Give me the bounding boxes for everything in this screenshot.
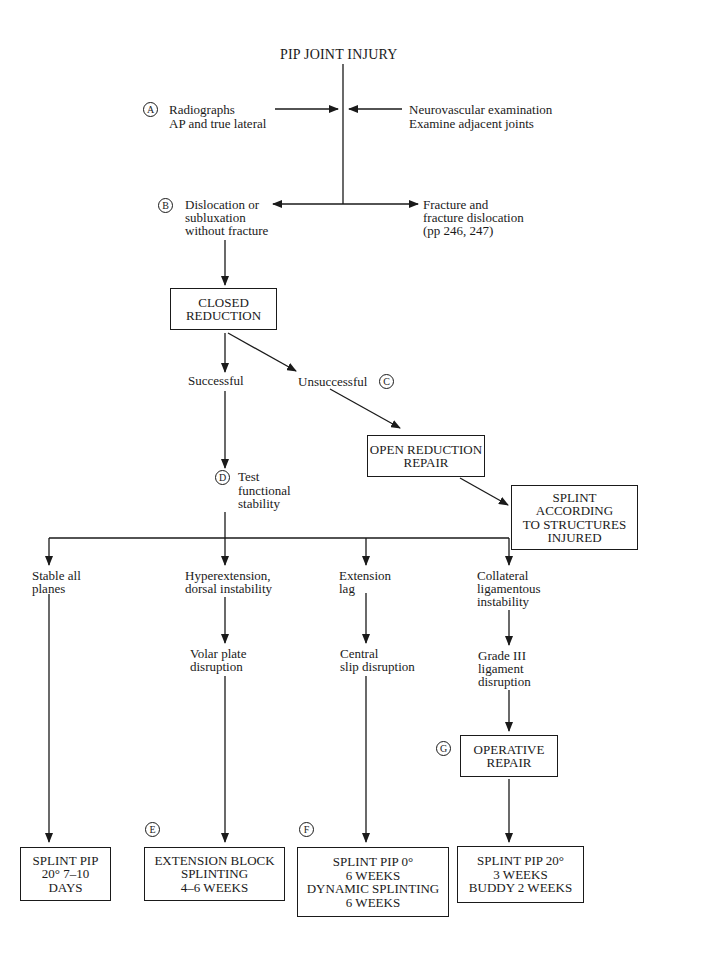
splint-according-line3: TO STRUCTURES <box>523 518 626 532</box>
arrow-to-unsuccessful <box>228 333 296 371</box>
col1-condition-line2: planes <box>32 582 65 596</box>
marker-d: D <box>215 470 230 485</box>
fracture-line3: (pp 246, 247) <box>423 224 493 238</box>
col2-treatment-line3: 4–6 WEEKS <box>181 881 248 895</box>
open-reduction-box: OPEN REDUCTION REPAIR <box>367 435 485 477</box>
marker-c: C <box>379 374 394 389</box>
splint-according-line2: ACCORDING <box>536 504 613 518</box>
adjacent-joints-label: Examine adjacent joints <box>409 117 534 131</box>
closed-reduction-line2: REDUCTION <box>186 309 261 323</box>
treatment-box-col2: EXTENSION BLOCK SPLINTING 4–6 WEEKS <box>144 847 285 901</box>
col2-condition-line2: dorsal instability <box>185 582 272 596</box>
col4-treatment-line3: BUDDY 2 WEEKS <box>469 881 572 895</box>
col2-treatment-line1: EXTENSION BLOCK <box>154 854 274 868</box>
splint-according-box: SPLINT ACCORDING TO STRUCTURES INJURED <box>511 485 638 550</box>
dislocation-line3: without fracture <box>185 224 268 238</box>
radiographs-label: Radiographs <box>169 103 235 117</box>
splint-according-line1: SPLINT <box>552 491 596 505</box>
marker-b: B <box>158 198 173 213</box>
diagram-title: PIP JOINT INJURY <box>280 48 398 62</box>
successful-label: Successful <box>188 374 244 388</box>
col4-treatment-line2: 3 WEEKS <box>493 868 547 882</box>
marker-g: G <box>436 741 451 756</box>
col1-treatment-line1: SPLINT PIP <box>33 854 99 868</box>
col2-treatment-line2: SPLINTING <box>181 867 248 881</box>
open-reduction-line1: OPEN REDUCTION <box>370 443 482 457</box>
col4-condition-line3: instability <box>477 595 529 609</box>
arrow-to-open-reduction <box>330 389 400 428</box>
marker-a: A <box>143 102 158 117</box>
col3-treatment-line1: SPLINT PIP 0° <box>333 855 413 869</box>
operative-repair-line2: REPAIR <box>486 756 531 770</box>
arrow-to-splint-according <box>460 478 508 505</box>
col3-condition-line2: lag <box>339 582 355 596</box>
col1-treatment-line2: 20° 7–10 <box>42 867 89 881</box>
treatment-box-col1: SPLINT PIP 20° 7–10 DAYS <box>20 847 111 901</box>
treatment-box-col3: SPLINT PIP 0° 6 WEEKS DYNAMIC SPLINTING … <box>297 847 449 917</box>
col3-finding-line2: slip disruption <box>340 660 415 674</box>
operative-repair-line1: OPERATIVE <box>474 743 545 757</box>
unsuccessful-label: Unsuccessful <box>298 375 367 389</box>
col1-treatment-line3: DAYS <box>48 881 82 895</box>
col4-finding-line3: disruption <box>478 675 531 689</box>
col3-treatment-line2: 6 WEEKS <box>346 869 400 883</box>
open-reduction-line2: REPAIR <box>403 456 448 470</box>
test-stability-line3: stability <box>238 497 280 511</box>
radiographs-sublabel: AP and true lateral <box>169 117 266 131</box>
neurovascular-label: Neurovascular examination <box>409 103 552 117</box>
test-stability-line1: Test <box>238 470 259 484</box>
splint-according-line4: INJURED <box>547 531 601 545</box>
col3-treatment-line4: 6 WEEKS <box>346 896 400 910</box>
operative-repair-box: OPERATIVE REPAIR <box>460 735 558 777</box>
marker-f: F <box>299 822 314 837</box>
closed-reduction-box: CLOSED REDUCTION <box>170 288 277 330</box>
treatment-box-col4: SPLINT PIP 20° 3 WEEKS BUDDY 2 WEEKS <box>457 846 584 903</box>
closed-reduction-line1: CLOSED <box>198 296 249 310</box>
col2-finding-line2: disruption <box>190 660 243 674</box>
col3-treatment-line3: DYNAMIC SPLINTING <box>307 882 440 896</box>
col4-treatment-line1: SPLINT PIP 20° <box>477 854 564 868</box>
marker-e: E <box>145 822 160 837</box>
flowchart-connectors <box>0 0 704 954</box>
